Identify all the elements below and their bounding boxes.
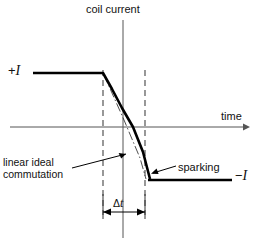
x-axis-label: time	[221, 110, 242, 122]
delta-t-variable: t	[120, 196, 123, 210]
coil-current-diagram: coil current time +I −I linear idealcomm…	[0, 0, 255, 238]
diagram-canvas	[0, 0, 255, 238]
leader-sparking	[151, 166, 176, 174]
annotation-delta-t: Δt	[113, 197, 123, 210]
label-positive-current-sign: +	[8, 63, 16, 78]
leader-linear-ideal-commutation	[72, 153, 126, 168]
chart-title: coil current	[86, 3, 140, 15]
label-negative-current: −I	[235, 168, 247, 184]
annotation-linear-line-2: commutation	[3, 168, 63, 180]
annotation-sparking: sparking	[178, 161, 220, 173]
annotation-linear-ideal-commutation: linear idealcommutation	[3, 157, 63, 181]
time-axis	[10, 124, 250, 131]
label-negative-current-sign: −	[235, 168, 243, 183]
delta-t-arrowhead-left	[103, 209, 111, 216]
label-negative-current-symbol: I	[243, 168, 248, 183]
annotation-linear-line-1: linear ideal	[3, 156, 54, 168]
delta-t-dimension	[103, 194, 145, 219]
delta-symbol: Δ	[113, 197, 120, 209]
time-axis-arrowhead	[243, 124, 250, 131]
label-positive-current-symbol: I	[16, 63, 21, 78]
leader-arrowhead-sparking	[151, 168, 159, 174]
delta-t-arrowhead-right	[137, 209, 145, 216]
label-positive-current: +I	[8, 63, 20, 79]
